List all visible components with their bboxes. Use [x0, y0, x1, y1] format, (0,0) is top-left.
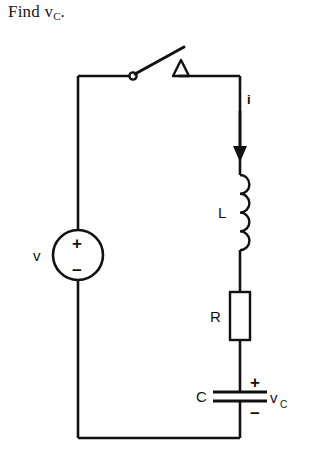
switch-terminal-triangle-icon [173, 60, 189, 76]
inductor-label: L [218, 204, 226, 221]
current-arrow-head-icon [233, 146, 247, 162]
inductor-coil-icon [240, 175, 249, 250]
resistor-label: R [210, 308, 221, 325]
capacitor-plus-sign: + [250, 373, 260, 392]
capacitor-voltage-subscript: C [280, 399, 287, 410]
capacitor-label: C [196, 388, 207, 405]
current-label: i [247, 92, 251, 107]
voltage-source-minus-sign: − [72, 261, 82, 280]
circuit-diagram: i L R C + − v C + − v [0, 28, 309, 461]
capacitor-minus-sign: − [250, 404, 260, 423]
resistor-body-icon [230, 292, 250, 340]
voltage-source-plus-sign: + [72, 234, 82, 253]
capacitor-voltage-label: v [270, 389, 278, 406]
voltage-source-label: v [33, 247, 41, 264]
page-title: Find vC. [8, 2, 65, 22]
problem-figure-page: Find vC. [0, 0, 309, 461]
prompt-suffix: . [60, 2, 64, 21]
prompt-prefix: Find v [8, 2, 53, 21]
